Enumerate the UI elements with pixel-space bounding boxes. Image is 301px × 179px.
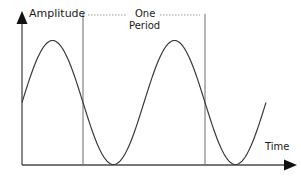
x-axis-label: Time [265, 142, 289, 152]
x-axis-arrow-icon [284, 160, 297, 171]
period-label-line2: Period [129, 21, 160, 31]
period-label-line1: One [135, 9, 155, 19]
y-axis-arrow-icon [17, 11, 28, 24]
sine-curve [22, 41, 266, 165]
y-axis-label: Amplitude [29, 8, 85, 19]
